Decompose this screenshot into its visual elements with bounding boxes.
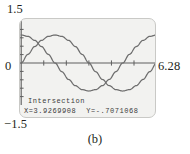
y-axis-zero-label: 0 (5, 60, 11, 73)
intersection-values: X=3.9269908Y=-.7071068 (24, 108, 139, 115)
figure-container: 1.5 0 6.28 −1.5 Intersection X=3.9269908… (0, 0, 190, 154)
y-axis-max-label: 1.5 (7, 3, 23, 16)
calculator-screen[interactable]: Intersection X=3.9269908Y=-.7071068 (19, 18, 156, 118)
figure-caption: (b) (0, 133, 190, 146)
intersection-x-value: X=3.9269908 (24, 107, 76, 115)
intersection-y-value: Y=-.7071068 (86, 107, 138, 115)
intersection-title: Intersection (28, 98, 85, 105)
y-axis-min-label: −1.5 (4, 118, 27, 131)
x-axis-max-label: 6.28 (158, 60, 180, 73)
